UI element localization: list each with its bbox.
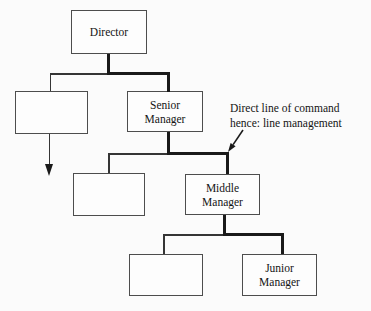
connector-middle-drop [223, 215, 226, 234]
connector-level3-horizontal-thin [163, 234, 224, 236]
connector-to-middle-manager [226, 152, 229, 174]
annotation-arrow-icon [224, 129, 248, 155]
connector-director-drop [107, 54, 110, 73]
connector-level3-horizontal-thick [223, 233, 285, 236]
connector-to-senior-manager [167, 72, 170, 92]
connector-level2-horizontal-thick [167, 152, 229, 155]
node-director: Director [71, 10, 147, 54]
node-senior-manager: Senior Manager [127, 91, 203, 132]
connector-to-unlabeled-middle [108, 153, 110, 173]
org-chart-figure: Director Senior Manager Middle Manager J… [0, 0, 371, 311]
connector-level1-horizontal-thick [107, 72, 170, 75]
connector-senior-drop [167, 132, 170, 153]
connector-level1-horizontal-thin [50, 73, 108, 75]
continuation-arrow-stem [49, 134, 51, 165]
connector-to-unlabeled-bottom [163, 234, 165, 254]
node-unlabeled-top [15, 91, 88, 134]
node-unlabeled-middle [73, 173, 145, 216]
node-junior-manager: Junior Manager [242, 254, 317, 296]
node-unlabeled-bottom [129, 254, 203, 296]
annotation-line-management: Direct line of command hence: line manag… [230, 101, 368, 130]
connector-to-junior-manager [281, 233, 284, 254]
down-arrow-icon [45, 164, 53, 176]
connector-level2-horizontal-thin [108, 153, 170, 155]
node-middle-manager: Middle Manager [185, 174, 260, 215]
connector-to-unlabeled-top [50, 73, 52, 91]
